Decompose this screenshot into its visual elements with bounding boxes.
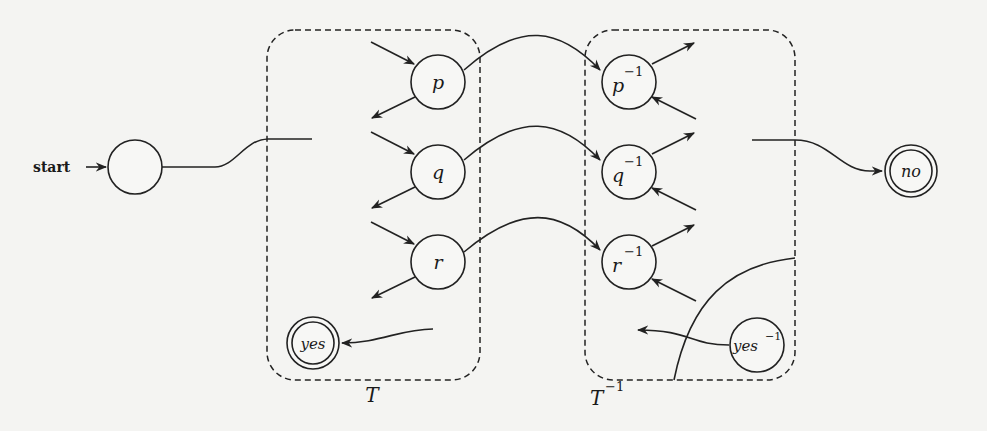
state-p-inverse-label: p bbox=[612, 74, 624, 96]
state-yes-inverse[interactable]: yes −1 bbox=[730, 318, 784, 372]
state-q-label: q bbox=[432, 161, 444, 183]
edge-out-of-p-inverse bbox=[652, 43, 694, 64]
state-no-label: no bbox=[901, 162, 921, 181]
state-q-inverse-label: q bbox=[612, 164, 624, 186]
edge-into-p-inverse bbox=[652, 97, 696, 119]
automaton-diagram: start p q r yes T p −1 q −1 bbox=[0, 0, 987, 431]
edge-T-inverse-to-no bbox=[752, 140, 882, 171]
box-T-label: T bbox=[365, 383, 380, 407]
state-q[interactable]: q bbox=[411, 145, 465, 199]
start-label: start bbox=[33, 159, 71, 175]
state-q-inverse-sup: −1 bbox=[624, 154, 643, 169]
edge-start-to-T bbox=[162, 139, 312, 167]
edge-into-p bbox=[371, 42, 414, 64]
start-state[interactable] bbox=[108, 140, 162, 194]
state-p-label: p bbox=[432, 71, 444, 93]
state-r[interactable]: r bbox=[411, 235, 465, 289]
edge-r-to-r-inverse bbox=[464, 218, 600, 252]
state-yes-inverse-sup: −1 bbox=[765, 330, 781, 343]
edge-yes-inverse-to-T-inverse bbox=[638, 330, 729, 345]
edge-into-q bbox=[371, 132, 414, 154]
edge-out-of-p bbox=[372, 97, 415, 118]
state-yes[interactable]: yes bbox=[287, 317, 339, 369]
state-yes-label: yes bbox=[299, 335, 325, 353]
state-no[interactable]: no bbox=[885, 145, 937, 197]
box-T-inverse-sup: −1 bbox=[605, 379, 624, 394]
edge-into-r bbox=[371, 222, 414, 244]
state-p-inverse-sup: −1 bbox=[624, 64, 643, 79]
edge-out-of-r-inverse bbox=[652, 225, 694, 246]
edge-out-of-q-inverse bbox=[652, 133, 694, 154]
edge-q-to-q-inverse bbox=[464, 126, 600, 160]
edge-out-of-r bbox=[372, 277, 415, 298]
state-yes-inverse-label: yes bbox=[732, 337, 758, 355]
edge-into-q-inverse bbox=[652, 188, 696, 210]
edge-out-of-q bbox=[372, 187, 415, 208]
edge-p-to-p-inverse bbox=[464, 35, 600, 70]
edge-into-r-inverse bbox=[652, 279, 696, 301]
state-r-inverse-sup: −1 bbox=[624, 244, 643, 259]
state-r-inverse[interactable]: r −1 bbox=[602, 235, 656, 289]
box-T-inverse-label: T bbox=[590, 386, 605, 410]
state-p[interactable]: p bbox=[411, 55, 465, 109]
edge-T-to-yes bbox=[342, 329, 433, 343]
state-p-inverse[interactable]: p −1 bbox=[602, 55, 656, 109]
state-q-inverse[interactable]: q −1 bbox=[602, 145, 656, 199]
